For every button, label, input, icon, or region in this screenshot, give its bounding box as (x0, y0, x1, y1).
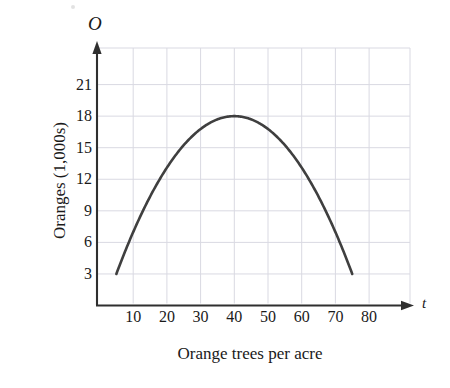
y-tick-label: 15 (58, 140, 92, 156)
vertical-gridlines (133, 48, 410, 304)
x-tick-label: 80 (349, 309, 389, 325)
y-tick-label: 12 (58, 171, 92, 187)
x-axis-title: Orange trees per acre (97, 345, 403, 362)
y-tick-label: 18 (58, 108, 92, 124)
y-tick-label: 9 (58, 203, 92, 219)
orange-yield-chart-figure: O t Oranges (1,000s) Orange trees per ac… (0, 0, 450, 388)
y-tick-label: 3 (58, 266, 92, 282)
horizontal-gridlines (97, 48, 410, 274)
x-tick-label-group: 1020304050607080 (0, 309, 450, 333)
axis-lines (92, 41, 414, 310)
y-tick-label: 6 (58, 234, 92, 250)
y-tick-label: 21 (58, 77, 92, 93)
